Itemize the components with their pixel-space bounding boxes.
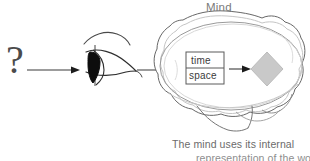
space-label: space bbox=[189, 70, 217, 81]
time-label: time bbox=[191, 55, 211, 66]
mind-label: Mind bbox=[206, 1, 232, 13]
arrow-right-icon bbox=[27, 66, 80, 73]
mind-representation-diagram: ? Mind time space The mind uses its inte… bbox=[0, 0, 310, 161]
caption-line-2: representation of the world bbox=[196, 152, 310, 161]
question-mark-stimulus: ? bbox=[6, 40, 24, 80]
eye-icon bbox=[84, 32, 142, 86]
brain-icon bbox=[154, 11, 305, 131]
diagram-canvas bbox=[0, 0, 310, 161]
caption-line-1: The mind uses its internal bbox=[172, 138, 294, 150]
